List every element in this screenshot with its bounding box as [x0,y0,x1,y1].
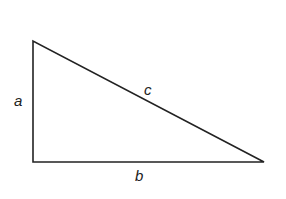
triangle-diagram: a c b [0,0,286,199]
side-a-label: a [14,92,22,109]
side-b-label: b [135,167,143,184]
hypotenuse-c-label: c [144,81,152,98]
right-triangle [33,41,264,162]
